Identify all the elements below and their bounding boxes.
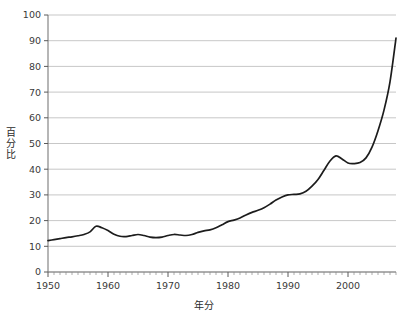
y-tick-label-30: 30 [29,189,41,200]
x-axis-title-text: 年分 [194,300,214,311]
y-tick-label-20: 20 [29,215,41,226]
y-tick-label-0: 0 [35,266,41,277]
x-tick-label-1960: 1960 [96,280,120,291]
x-tick-label-1950: 1950 [36,280,60,291]
y-tick-label-50: 50 [29,138,41,149]
y-axis-title-text: 百分比 [2,128,20,160]
y-tick-label-10: 10 [29,241,41,252]
y-axis-title: 百分比 [2,128,20,160]
x-tick-label-1990: 1990 [276,280,300,291]
y-tick-label-80: 80 [29,61,41,72]
line-chart: 0102030405060708090100 19501960197019801… [0,0,408,322]
chart-container: 0102030405060708090100 19501960197019801… [0,0,408,322]
x-tick-label-1970: 1970 [156,280,180,291]
y-tick-label-90: 90 [29,35,41,46]
x-axis-title: 年分 [0,297,408,312]
x-tick-label-1980: 1980 [216,280,240,291]
y-tick-label-100: 100 [23,9,41,20]
y-tick-label-70: 70 [29,87,41,98]
x-tick-label-2000: 2000 [336,280,360,291]
y-tick-label-40: 40 [29,164,41,175]
y-tick-label-60: 60 [29,112,41,123]
